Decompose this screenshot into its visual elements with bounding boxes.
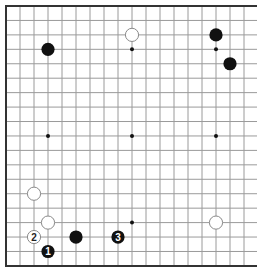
star-point xyxy=(214,47,218,51)
white-stone xyxy=(125,28,138,41)
move-number-label: 3 xyxy=(115,232,121,243)
white-stone xyxy=(27,187,40,200)
black-stone-3: 3 xyxy=(111,230,124,243)
white-stone-icon xyxy=(41,216,54,229)
black-stone xyxy=(209,28,222,41)
black-stone xyxy=(69,230,82,243)
white-stone xyxy=(41,216,54,229)
star-point xyxy=(130,134,134,138)
white-stone-icon xyxy=(27,187,40,200)
move-number-label: 2 xyxy=(31,232,37,243)
star-point xyxy=(46,134,50,138)
move-number-label: 1 xyxy=(45,246,51,257)
black-stone-1: 1 xyxy=(41,245,54,258)
white-stone-2: 2 xyxy=(27,230,40,243)
black-stone xyxy=(223,57,236,70)
black-stone-icon xyxy=(223,57,236,70)
white-stone-icon xyxy=(125,28,138,41)
white-stone xyxy=(209,216,222,229)
black-stone-icon xyxy=(209,28,222,41)
star-point xyxy=(130,47,134,51)
star-point xyxy=(130,221,134,225)
black-stone xyxy=(41,43,54,56)
go-board: 213 xyxy=(0,0,257,273)
white-stone-icon xyxy=(209,216,222,229)
star-point xyxy=(214,134,218,138)
black-stone-icon xyxy=(69,230,82,243)
black-stone-icon xyxy=(41,43,54,56)
